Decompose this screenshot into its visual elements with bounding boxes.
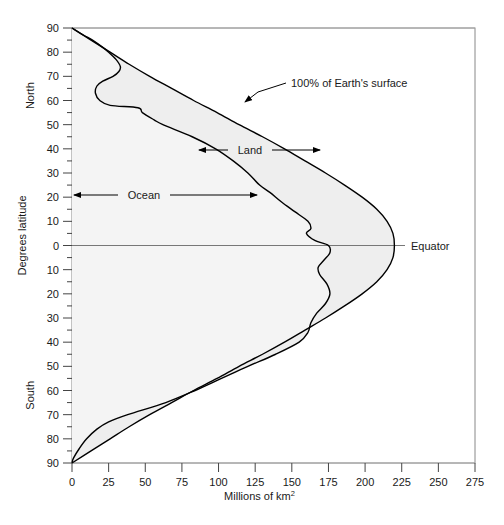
total-surface-label: 100% of Earth's surface — [291, 77, 407, 89]
x-tick-label: 0 — [69, 476, 75, 488]
equator-label: Equator — [411, 240, 450, 252]
x-tick-label: 175 — [319, 476, 337, 488]
x-axis-title: Millions of km2 — [224, 489, 295, 502]
y-tick-label: 80 — [47, 433, 59, 445]
y-tick-label: 40 — [47, 336, 59, 348]
x-tick-label: 50 — [139, 476, 151, 488]
x-tick-label: 275 — [466, 476, 484, 488]
y-tick-label: 80 — [47, 46, 59, 58]
y-tick-label: 90 — [47, 457, 59, 469]
y-tick-label: 30 — [47, 167, 59, 179]
y-tick-label: 50 — [47, 360, 59, 372]
latitude-area-chart: 9080706050403020100102030405060708090025… — [0, 0, 504, 525]
x-tick-label: 225 — [393, 476, 411, 488]
x-tick-label: 75 — [176, 476, 188, 488]
y-tick-label: 60 — [47, 95, 59, 107]
y-tick-label: 70 — [47, 70, 59, 82]
x-tick-label: 250 — [429, 476, 447, 488]
chart-figure: 9080706050403020100102030405060708090025… — [0, 0, 504, 525]
land-label: Land — [238, 144, 262, 156]
x-tick-label: 125 — [246, 476, 264, 488]
y-axis-title: Degrees latitude — [16, 195, 28, 275]
x-tick-label: 25 — [103, 476, 115, 488]
y-axis: 9080706050403020100102030405060708090 — [47, 22, 72, 469]
y-tick-label: 40 — [47, 143, 59, 155]
x-tick-label: 100 — [209, 476, 227, 488]
north-hemisphere-label: North — [24, 82, 36, 109]
ocean-label: Ocean — [128, 189, 160, 201]
y-tick-label: 30 — [47, 312, 59, 324]
x-axis: 0255075100125150175200225250275 — [69, 463, 484, 488]
x-tick-label: 200 — [356, 476, 374, 488]
y-tick-label: 20 — [47, 191, 59, 203]
y-tick-label: 90 — [47, 22, 59, 34]
y-tick-label: 70 — [47, 409, 59, 421]
y-tick-label: 60 — [47, 385, 59, 397]
y-tick-label: 20 — [47, 288, 59, 300]
y-tick-label: 50 — [47, 119, 59, 131]
south-hemisphere-label: South — [24, 381, 36, 410]
y-tick-label: 10 — [47, 264, 59, 276]
y-tick-label: 10 — [47, 215, 59, 227]
x-tick-label: 150 — [283, 476, 301, 488]
y-tick-label: 0 — [53, 240, 59, 252]
